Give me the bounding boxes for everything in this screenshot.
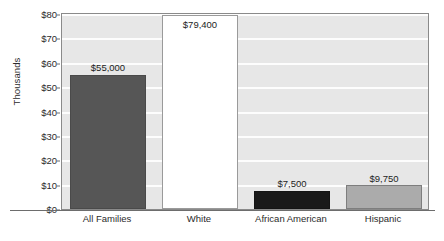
y-axis-tick-label: $70 xyxy=(41,35,57,45)
bar-value-label: $9,750 xyxy=(369,174,398,184)
bar-value-label: $79,400 xyxy=(183,20,217,30)
y-axis-tick-mark xyxy=(57,112,60,113)
plot-area: $55,000$79,400$7,500$9,750 xyxy=(61,13,429,210)
bar-slot: $9,750 xyxy=(338,14,430,209)
bar[interactable]: $55,000 xyxy=(70,75,145,209)
x-axis-category-label: White xyxy=(187,214,211,224)
y-axis-tick-label: $20 xyxy=(41,157,57,167)
y-axis-tick-mark xyxy=(57,88,60,89)
x-axis-category-labels: All FamiliesWhiteAfrican AmericanHispani… xyxy=(61,214,429,234)
y-axis-tick-mark xyxy=(57,161,60,162)
x-axis-category-label: African American xyxy=(255,214,327,224)
y-axis-tick-label: $50 xyxy=(41,83,57,93)
y-axis-tick-label: $80 xyxy=(41,10,57,20)
bar-slot: $79,400 xyxy=(154,14,246,209)
x-axis-category-label: Hispanic xyxy=(365,214,401,224)
y-axis-tick-labels: $0$10$20$30$40$50$60$70$80 xyxy=(18,14,60,209)
y-axis-tick-label: $10 xyxy=(41,181,57,191)
y-axis-tick-mark xyxy=(57,136,60,137)
x-axis-line xyxy=(10,210,435,211)
x-axis-category-label: All Families xyxy=(83,214,132,224)
y-axis-tick-mark xyxy=(57,39,60,40)
bar[interactable]: $7,500 xyxy=(254,191,329,209)
bar-value-label: $7,500 xyxy=(277,179,306,189)
bar-series: $55,000$79,400$7,500$9,750 xyxy=(62,14,428,209)
bar-slot: $7,500 xyxy=(246,14,338,209)
y-axis-tick-label: $60 xyxy=(41,59,57,69)
y-axis-tick-mark xyxy=(57,63,60,64)
bar[interactable]: $79,400 xyxy=(162,15,237,209)
y-axis-tick-mark xyxy=(57,15,60,16)
bar-value-label: $55,000 xyxy=(91,63,125,73)
bar-slot: $55,000 xyxy=(62,14,154,209)
y-axis-tick-mark xyxy=(57,185,60,186)
bar-chart: Thousands $0$10$20$30$40$50$60$70$80 $55… xyxy=(0,0,444,241)
y-axis-tick-label: $30 xyxy=(41,132,57,142)
y-axis-tick-label: $40 xyxy=(41,108,57,118)
bar[interactable]: $9,750 xyxy=(346,185,421,209)
